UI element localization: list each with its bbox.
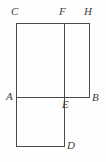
vertex-label-A: A xyxy=(6,91,13,102)
geometry-figure: ABCDEFH xyxy=(0,0,106,162)
segment-layer xyxy=(16,23,89,146)
vertex-label-H: H xyxy=(84,6,92,17)
vertex-label-C: C xyxy=(11,6,18,17)
vertex-label-B: B xyxy=(92,92,99,103)
vertex-label-F: F xyxy=(59,6,66,17)
figure-canvas xyxy=(0,0,106,162)
vertex-label-D: D xyxy=(67,140,75,151)
vertex-label-E: E xyxy=(62,99,69,110)
